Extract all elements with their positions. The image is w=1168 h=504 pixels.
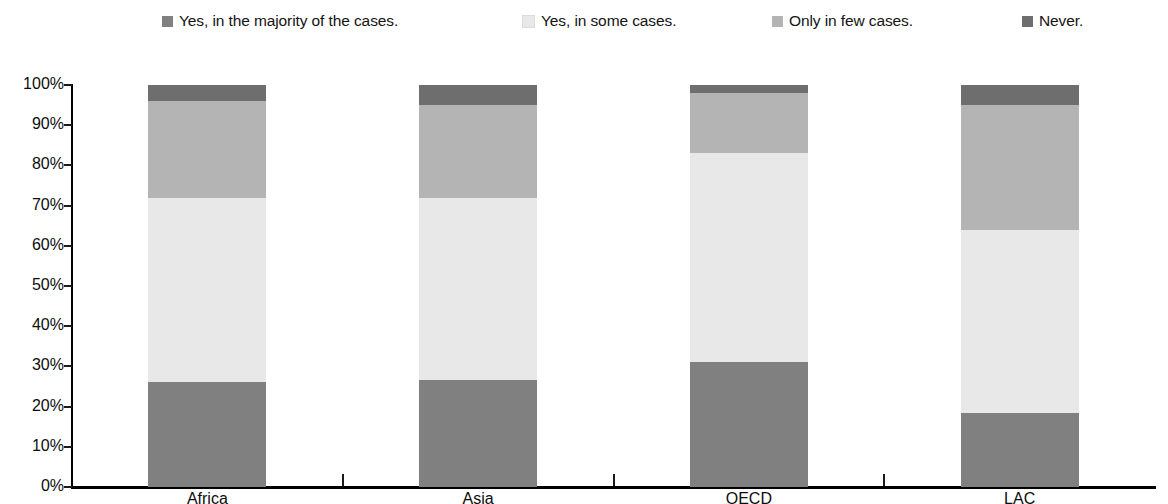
legend-label-never: Never. (1039, 13, 1083, 29)
bar-lac[interactable] (961, 85, 1079, 487)
stacked-bar-chart: 0%10%20%30%40%50%60%70%80%90%100% Africa… (0, 46, 1168, 504)
bar-segment-asia-few[interactable] (419, 105, 537, 197)
y-axis-tick-mark (64, 124, 72, 126)
legend-swatch-icon-never (1022, 16, 1033, 27)
legend-item-majority[interactable]: Yes, in the majority of the cases. (162, 13, 398, 29)
y-axis-tick-mark (64, 205, 72, 207)
x-axis-label-lac: LAC (940, 490, 1100, 504)
bar-segment-africa-some[interactable] (148, 198, 266, 383)
x-axis-label-africa: Africa (127, 490, 287, 504)
y-axis-tick-label: 50% (6, 277, 64, 293)
legend-label-some: Yes, in some cases. (541, 13, 676, 29)
bar-segment-oecd-never[interactable] (690, 85, 808, 93)
bar-segment-lac-some[interactable] (961, 230, 1079, 413)
legend-swatch-icon-some (522, 15, 535, 28)
bar-segment-oecd-few[interactable] (690, 93, 808, 153)
bar-segment-lac-never[interactable] (961, 85, 1079, 105)
y-axis-tick-label: 0% (6, 478, 64, 494)
y-axis-tick-mark (64, 325, 72, 327)
y-axis-tick-label: 30% (6, 357, 64, 373)
y-axis-tick-label: 90% (6, 116, 64, 132)
y-axis-tick-label: 80% (6, 156, 64, 172)
y-axis-tick-mark (64, 365, 72, 367)
legend-item-some[interactable]: Yes, in some cases. (522, 13, 676, 29)
y-axis-tick-label: 70% (6, 197, 64, 213)
y-axis-tick-mark (64, 406, 72, 408)
bar-segment-asia-majority[interactable] (419, 380, 537, 487)
bar-segment-asia-never[interactable] (419, 85, 537, 105)
legend-swatch-icon-majority (162, 16, 173, 27)
x-axis-label-oecd: OECD (669, 490, 829, 504)
legend-label-majority: Yes, in the majority of the cases. (179, 13, 398, 29)
y-axis-tick-mark (64, 285, 72, 287)
bar-segment-oecd-majority[interactable] (690, 362, 808, 487)
y-axis-tick-label: 100% (6, 76, 64, 92)
y-axis-tick-mark (64, 486, 72, 488)
bar-oecd[interactable] (690, 85, 808, 487)
y-axis-tick-mark (64, 84, 72, 86)
bar-africa[interactable] (148, 85, 266, 487)
legend-swatch-icon-few (772, 16, 783, 27)
legend-item-never[interactable]: Never. (1022, 13, 1083, 29)
bar-segment-africa-few[interactable] (148, 101, 266, 197)
y-axis-tick-label: 40% (6, 317, 64, 333)
bar-segment-africa-never[interactable] (148, 85, 266, 101)
bar-segment-lac-majority[interactable] (961, 413, 1079, 487)
y-axis-tick-mark (64, 164, 72, 166)
chart-legend: Yes, in the majority of the cases. Yes, … (0, 0, 1168, 46)
y-axis-tick-label: 10% (6, 438, 64, 454)
legend-label-few: Only in few cases. (789, 13, 913, 29)
bar-segment-asia-some[interactable] (419, 198, 537, 381)
y-axis-tick-mark (64, 446, 72, 448)
y-axis-tick-label: 20% (6, 398, 64, 414)
bar-asia[interactable] (419, 85, 537, 487)
plot-area (72, 85, 1155, 487)
legend-item-few[interactable]: Only in few cases. (772, 13, 913, 29)
bar-segment-africa-majority[interactable] (148, 382, 266, 487)
x-axis-label-asia: Asia (398, 490, 558, 504)
bar-segment-lac-few[interactable] (961, 105, 1079, 230)
bar-segment-oecd-some[interactable] (690, 153, 808, 362)
y-axis-tick-mark (64, 245, 72, 247)
y-axis-tick-label: 60% (6, 237, 64, 253)
